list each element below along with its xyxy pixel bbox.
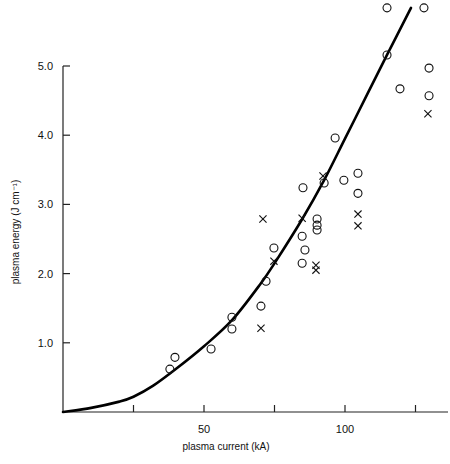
data-point-circle xyxy=(313,226,321,234)
data-point-cross xyxy=(424,110,431,117)
y-tick-label: 3.0 xyxy=(38,198,53,210)
markers-layer xyxy=(166,4,433,373)
data-point-circle xyxy=(396,85,404,93)
data-point-circle xyxy=(354,169,362,177)
data-point-circle xyxy=(354,189,362,197)
y-axis-label: plasma energy (J cm⁻¹) xyxy=(10,180,21,284)
data-point-circle xyxy=(425,64,433,72)
data-point-cross xyxy=(259,215,266,222)
fit-curve xyxy=(63,8,411,412)
data-point-circle xyxy=(340,176,348,184)
data-point-circle xyxy=(299,184,307,192)
data-point-circle xyxy=(257,302,265,310)
data-point-circle xyxy=(270,244,278,252)
x-tick-label: 100 xyxy=(336,423,354,435)
data-point-circle xyxy=(171,353,179,361)
data-point-circle xyxy=(166,365,174,373)
x-axis-label: plasma current (kA) xyxy=(182,441,269,452)
y-tick-label: 2.0 xyxy=(38,268,53,280)
data-point-cross xyxy=(354,222,361,229)
y-tick-label: 5.0 xyxy=(38,60,53,72)
data-point-cross xyxy=(354,210,361,217)
data-point-cross xyxy=(257,325,264,332)
data-point-circle xyxy=(207,345,215,353)
axes xyxy=(63,66,448,412)
data-point-circle xyxy=(228,325,236,333)
data-point-circle xyxy=(420,4,428,12)
data-point-cross xyxy=(312,267,319,274)
scatter-chart: 50100 1.02.03.04.05.0 plasma current (kA… xyxy=(0,0,450,464)
data-point-circle xyxy=(298,259,306,267)
data-point-circle xyxy=(298,232,306,240)
y-tick-label: 1.0 xyxy=(38,337,53,349)
data-point-circle xyxy=(331,134,339,142)
fit-curve-layer xyxy=(63,8,411,412)
y-ticks: 1.02.03.04.05.0 xyxy=(38,60,70,349)
data-point-circle xyxy=(425,92,433,100)
y-tick-label: 4.0 xyxy=(38,129,53,141)
data-point-circle xyxy=(383,4,391,12)
data-point-circle xyxy=(301,246,309,254)
x-ticks: 50100 xyxy=(134,405,416,435)
x-tick-label: 50 xyxy=(198,423,210,435)
